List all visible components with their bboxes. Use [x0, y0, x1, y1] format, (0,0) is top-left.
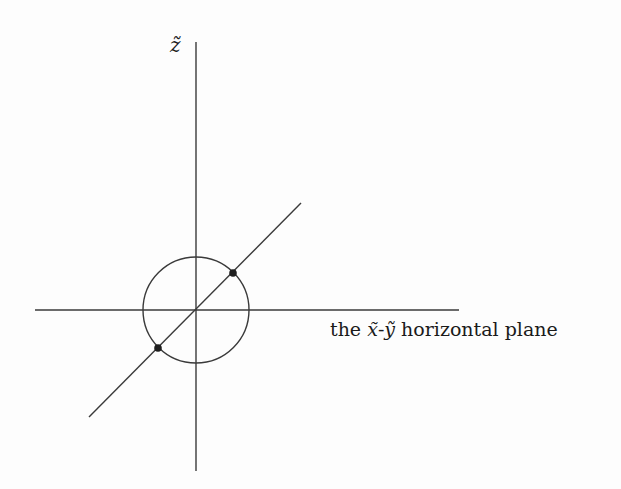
plane-label-y-var: ỹ — [384, 318, 395, 340]
horizontal-plane-label: the x̃-ỹ horizontal plane — [330, 318, 558, 340]
z-axis-label: z̃ — [170, 33, 181, 57]
plane-label-x-var: x̃ — [367, 318, 378, 340]
diagram-canvas — [0, 0, 621, 489]
intersection-point-lower-left — [154, 344, 162, 352]
plane-label-prefix: the — [330, 318, 367, 340]
plane-label-suffix: horizontal plane — [395, 318, 558, 340]
intersection-point-upper-right — [229, 269, 237, 277]
